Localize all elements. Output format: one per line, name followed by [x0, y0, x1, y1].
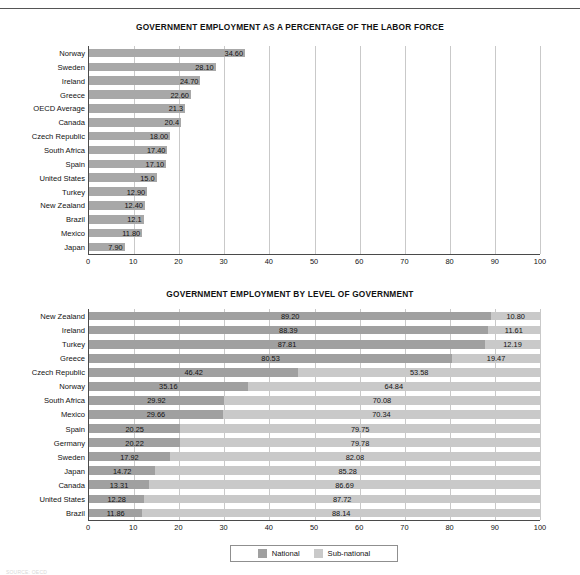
chart-bar-row: Spain20.2579.75: [89, 424, 540, 433]
x-axis-tick-label: 20: [174, 257, 182, 266]
bar-segment: 22.60: [89, 90, 191, 99]
chart-bar-row: Turkey12.90: [89, 187, 540, 196]
bar-value-label: 28.10: [195, 62, 214, 71]
category-label: New Zealand: [40, 312, 85, 321]
chart-level-of-government: New Zealand89.2010.80Ireland88.3911.61Tu…: [88, 309, 540, 521]
chart-bar-row: United States15.0: [89, 173, 540, 182]
category-label: South Africa: [44, 396, 85, 405]
bar-segment: 87.72: [144, 495, 540, 504]
bar-value-label: 17.10: [146, 159, 165, 168]
bar-value-label: 80.53: [261, 354, 280, 363]
category-label: Norway: [59, 48, 85, 57]
bar-value-label: 20.22: [125, 438, 144, 447]
bar-value-label: 17.40: [147, 145, 166, 154]
x-axis-tick-label: 10: [129, 523, 137, 532]
category-label: Ireland: [62, 76, 85, 85]
bar-value-label: 15.0: [140, 173, 154, 182]
bar-segment: 15.0: [89, 173, 157, 182]
bar-segment: 10.80: [491, 312, 540, 321]
bar-segment: 14.72: [89, 466, 155, 475]
bar-segment: 17.40: [89, 146, 167, 155]
gridline: [540, 309, 541, 520]
chart-bar-row: Japan7.90: [89, 243, 540, 252]
bar-segment: 28.10: [89, 63, 216, 72]
category-label: Czech Republic: [32, 368, 85, 377]
bar-segment: 29.92: [89, 396, 224, 405]
bar-value-label: 88.39: [279, 326, 298, 335]
x-axis-tick-label: 90: [491, 523, 499, 532]
bar-value-label: 12.90: [127, 187, 146, 196]
chart-bar-row: Germany20.2279.78: [89, 438, 540, 447]
x-axis-tick-label: 30: [219, 257, 227, 266]
x-axis-tick-label: 70: [400, 257, 408, 266]
chart-bar-row: Mexico29.6670.34: [89, 410, 540, 419]
legend-swatch-icon: [314, 549, 323, 558]
chart-bar-row: Czech Republic18.00: [89, 132, 540, 141]
bar-segment: 12.28: [89, 495, 144, 504]
bar-value-label: 11.61: [505, 326, 523, 335]
bar-value-label: 21.3: [169, 104, 183, 113]
bar-segment: 13.31: [89, 480, 149, 489]
bar-value-label: 85.28: [338, 466, 357, 475]
bar-value-label: 24.70: [180, 76, 199, 85]
x-axis-tick-label: 50: [310, 257, 318, 266]
category-label: Turkey: [62, 187, 85, 196]
category-label: Greece: [60, 90, 85, 99]
top-divider-rule: [0, 8, 580, 9]
bar-value-label: 70.08: [373, 396, 392, 405]
category-label: South Africa: [44, 145, 85, 154]
bar-segment: 17.10: [89, 160, 166, 169]
bar-segment: 85.28: [155, 466, 540, 475]
bar-segment: 79.78: [180, 438, 540, 447]
chart-bar-row: Czech Republic46.4253.58: [89, 368, 540, 377]
bar-segment: 87.81: [89, 340, 485, 349]
bar-value-label: 12.28: [107, 494, 126, 503]
category-label: New Zealand: [40, 201, 85, 210]
x-axis-tick-label: 80: [445, 523, 453, 532]
bar-value-label: 82.08: [346, 452, 365, 461]
category-label: Norway: [59, 382, 85, 391]
legend-item-national[interactable]: National: [258, 549, 300, 558]
category-label: Sweden: [58, 452, 85, 461]
bar-value-label: 86.69: [335, 480, 354, 489]
chart-bar-row: Greece80.5319.47: [89, 354, 540, 363]
x-axis-tick-label: 30: [219, 523, 227, 532]
category-label: Czech Republic: [32, 132, 85, 141]
x-axis-tick-label: 40: [265, 257, 273, 266]
bar-segment: 11.80: [89, 229, 142, 238]
bar-segment: 29.66: [89, 410, 223, 419]
bar-value-label: 87.72: [333, 494, 352, 503]
bar-segment: 88.14: [142, 509, 540, 518]
bar-value-label: 14.72: [113, 466, 132, 475]
chart-labor-force-share: Norway34.60Sweden28.10Ireland24.70Greece…: [88, 46, 540, 255]
gridline: [540, 46, 541, 254]
category-label: Sweden: [58, 62, 85, 71]
category-label: Japan: [64, 243, 85, 252]
legend-label: Sub-national: [328, 549, 371, 558]
bar-segment: 80.53: [89, 354, 452, 363]
legend-item-sub-national[interactable]: Sub-national: [314, 549, 371, 558]
category-label: OECD Average: [33, 104, 85, 113]
bar-segment: 86.69: [149, 480, 540, 489]
x-axis-tick-label: 0: [86, 257, 90, 266]
x-axis-tick-label: 0: [86, 523, 90, 532]
x-axis-tick-label: 100: [534, 257, 546, 266]
category-label: Mexico: [61, 410, 85, 419]
x-axis-tick-label: 40: [265, 523, 273, 532]
chart-bar-row: Norway34.60: [89, 49, 540, 58]
category-label: Canada: [58, 118, 85, 127]
x-axis-tick-label: 50: [310, 523, 318, 532]
bar-segment: 53.58: [298, 368, 540, 377]
bar-value-label: 12.1: [127, 215, 141, 224]
legend-swatch-icon: [258, 549, 267, 558]
bar-segment: 12.40: [89, 201, 145, 210]
x-axis-tick-label: 80: [445, 257, 453, 266]
bar-value-label: 46.42: [184, 368, 203, 377]
chart2-plot-area: New Zealand89.2010.80Ireland88.3911.61Tu…: [88, 309, 540, 521]
bar-value-label: 53.58: [410, 368, 429, 377]
bar-segment: 34.60: [89, 49, 245, 58]
bar-segment: 18.00: [89, 132, 170, 141]
category-label: Brazil: [66, 508, 85, 517]
category-label: Ireland: [62, 326, 85, 335]
bar-segment: 24.70: [89, 76, 200, 85]
